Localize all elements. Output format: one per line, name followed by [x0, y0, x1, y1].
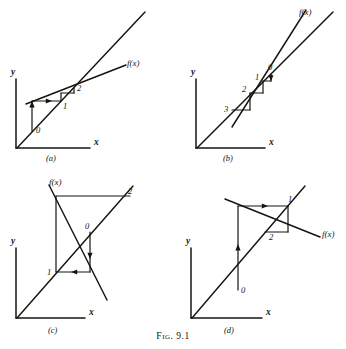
- figure-caption-number: 9.1: [176, 331, 189, 341]
- panel-a-point-label-2: 2: [77, 83, 82, 93]
- panel-b-y-axis-label: y: [190, 67, 196, 77]
- panel-a-point-label-1: 1: [63, 101, 67, 111]
- panel-a-y-axis-label: y: [10, 67, 16, 77]
- panel-c-point-label-0: 0: [85, 221, 90, 231]
- panel-d-point-label-0: 0: [241, 285, 246, 295]
- panel-d-y-axis-label: y: [185, 236, 191, 246]
- panel-b-point-label-3: 3: [223, 104, 228, 114]
- panel-c-arrow-left-icon: [71, 269, 77, 274]
- panel-c-arrow-down-icon: [87, 253, 92, 259]
- panel-b-fx-label: f(x): [299, 7, 312, 17]
- panel-a-arrow-right-icon: [46, 98, 52, 103]
- panel-a-fx-curve: [26, 65, 126, 104]
- panel-d-point-label-1: 1: [288, 194, 292, 204]
- panel-c-fx-label: f(x): [49, 177, 62, 187]
- panel-b-arrow-down-icon: [269, 75, 274, 81]
- panel-d-point-label-2: 2: [269, 232, 274, 242]
- panel-c-point-label-1: 1: [47, 267, 51, 277]
- panel-d-x-axis-label: x: [265, 307, 271, 317]
- figure-canvas: y x f(x) 0 1 2 (a) y: [0, 0, 346, 349]
- panel-a-x-axis-label: x: [93, 137, 99, 147]
- panel-b-point-label-2: 2: [242, 84, 247, 94]
- figure-caption: Fig. 9.1: [0, 331, 346, 341]
- figure-caption-prefix: Fig.: [156, 331, 173, 341]
- panel-b-identity-line: [197, 12, 333, 148]
- panel-d: y x f(x) 0 1 2 (d): [185, 186, 335, 335]
- panel-a-fx-label: f(x): [127, 58, 140, 68]
- panel-b-point-label-1: 1: [255, 72, 259, 82]
- panel-a: y x f(x) 0 1 2 (a): [10, 12, 145, 163]
- panel-c-identity-line: [17, 186, 133, 318]
- panel-c-x-axis-label: x: [88, 307, 94, 317]
- panel-b-tag: (b): [223, 153, 233, 163]
- panel-c-y-axis-label: y: [10, 236, 16, 246]
- panel-d-arrow-right-icon: [262, 203, 268, 208]
- panel-b: y x f(x) 0 1 2 3 (b): [190, 7, 333, 163]
- panel-d-arrow-up-icon: [235, 244, 240, 250]
- panel-c: y x f(x) 0 1 2 (c): [10, 177, 133, 335]
- panel-b-x-axis-label: x: [268, 137, 274, 147]
- panel-a-tag: (a): [46, 153, 56, 163]
- panel-d-fx-label: f(x): [322, 229, 335, 239]
- panel-c-fx-curve: [49, 185, 107, 300]
- panel-a-point-label-0: 0: [36, 125, 41, 135]
- figure-9-1: y x f(x) 0 1 2 (a) y: [0, 0, 346, 349]
